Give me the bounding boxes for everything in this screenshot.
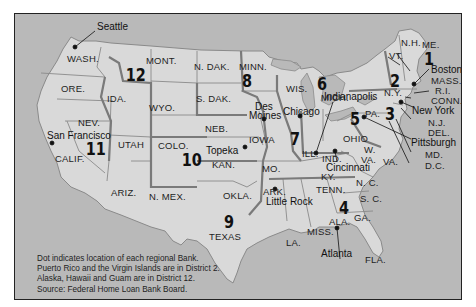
state-label-calif: CALIF.: [55, 154, 85, 164]
state-label-sdak: S. DAK.: [196, 94, 231, 104]
city-label-pittsburgh: Pittsburgh: [411, 138, 456, 148]
note-puerto-rico: Puerto Rico and the Virgin Islands are i…: [37, 264, 220, 274]
state-label-fla: FLA.: [365, 255, 386, 265]
city-label-seattle: Seattle: [97, 22, 128, 32]
state-label-ariz: ARIZ.: [111, 188, 136, 198]
state-label-ga: GA.: [354, 213, 371, 223]
state-label-wyo: WYO.: [149, 103, 175, 113]
note-source: Source: Federal Home Loan Bank Board.: [37, 285, 220, 295]
state-label-ore: ORE.: [61, 84, 85, 94]
state-label-nev: NEV.: [78, 118, 100, 128]
district-number-5: 5: [350, 111, 360, 128]
city-label-boston: Boston: [431, 65, 462, 75]
city-label-des-moines-2: Moines: [249, 111, 281, 121]
state-label-ida: IDA.: [107, 94, 126, 104]
state-label-tenn: TENN.: [316, 185, 346, 195]
state-label-okla: OKLA.: [223, 191, 252, 201]
state-label-nmex: N. MEX.: [149, 192, 186, 202]
city-label-topeka: Topeka: [206, 146, 238, 156]
district-number-10: 10: [182, 152, 202, 169]
map-frame: WASH. ORE. CALIF. NEV. IDA. MONT. WYO. U…: [14, 13, 462, 300]
state-label-wash: WASH.: [67, 54, 99, 64]
district-number-4: 4: [339, 200, 349, 217]
state-label-ala: ALA.: [329, 217, 350, 227]
state-label-va: VA.: [383, 157, 398, 167]
district-number-2: 2: [390, 73, 400, 90]
state-label-kan: KAN.: [212, 160, 235, 170]
city-label-cincinnati: Cincinnati: [326, 163, 370, 173]
state-label-ohio: OHIO: [343, 134, 368, 144]
state-label-texas: TEXAS: [209, 232, 241, 242]
state-label-nc: N. C.: [356, 178, 379, 188]
state-label-ill: ILL.: [302, 149, 319, 159]
state-label-wis: WIS.: [286, 84, 307, 94]
city-label-new-york: New York: [412, 106, 454, 116]
district-number-8: 8: [242, 73, 252, 90]
state-label-pa: PA.: [365, 109, 380, 119]
state-label-neb: NEB.: [205, 124, 228, 134]
state-label-md: MD.: [425, 150, 443, 160]
city-label-indianapolis: Indianapolis: [324, 92, 377, 102]
city-label-chicago: Chicago: [283, 107, 320, 117]
state-label-ndak: N. DAK.: [194, 62, 230, 72]
district-number-3: 3: [385, 106, 395, 123]
city-label-atlanta: Atlanta: [321, 249, 352, 259]
state-label-la: LA.: [286, 238, 301, 248]
district-number-11: 11: [86, 141, 106, 158]
note-alaska-hawaii: Alaska, Hawaii and Guam are in District …: [37, 274, 220, 284]
state-label-mont: MONT.: [146, 56, 177, 66]
city-label-san-francisco: San Francisco: [47, 131, 111, 141]
district-number-9: 9: [224, 214, 234, 231]
state-label-mo: MO.: [262, 164, 281, 174]
state-label-dc: D.C.: [425, 161, 445, 171]
state-label-vt: VT.: [389, 51, 403, 61]
note-dot-legend: Dot indicates location of each regional …: [37, 254, 220, 264]
state-label-nh: N.H.: [401, 38, 421, 48]
city-label-little-rock: Little Rock: [266, 197, 313, 207]
state-label-utah: UTAH: [118, 140, 144, 150]
state-label-miss: MISS.: [307, 227, 334, 237]
state-label-ky: KY.: [321, 172, 336, 182]
state-label-iowa: IOWA: [249, 135, 275, 145]
map-notes: Dot indicates location of each regional …: [37, 254, 220, 295]
state-label-sc: S. C.: [360, 194, 382, 204]
district-number-7: 7: [290, 131, 300, 148]
district-number-12: 12: [126, 67, 146, 84]
